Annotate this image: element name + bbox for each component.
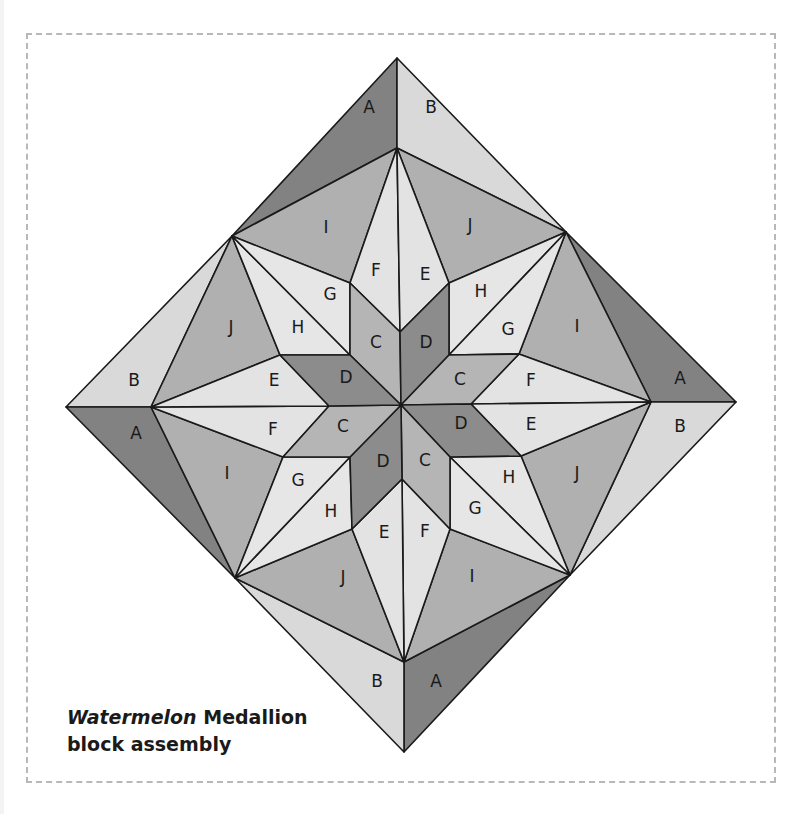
piece-label: F	[420, 521, 430, 541]
piece-label: G	[468, 498, 481, 518]
piece-label: G	[291, 470, 304, 490]
medallion-block-diagram: ABABABBAIJIJIJIJFEHGFEHGFEHGFEHGCDCDCDCD	[0, 0, 808, 814]
piece-label: J	[227, 317, 233, 337]
piece-label: A	[674, 368, 686, 388]
piece-label: H	[475, 281, 488, 301]
piece-label: C	[454, 369, 466, 389]
piece-label: E	[269, 370, 280, 390]
piece-label: D	[454, 413, 467, 433]
piece-label: H	[503, 467, 516, 487]
piece-label: C	[337, 416, 349, 436]
piece-label: J	[466, 215, 472, 235]
caption-line-1: Watermelon Medallion	[67, 704, 308, 731]
piece-label: C	[370, 332, 382, 352]
piece-label: D	[339, 367, 352, 387]
piece-label: E	[420, 264, 431, 284]
piece-label: I	[224, 463, 229, 483]
caption-title-italic: Watermelon	[67, 706, 197, 728]
piece-label: I	[469, 566, 474, 586]
piece-label: A	[430, 671, 442, 691]
piece-label: J	[573, 463, 579, 483]
piece-label: D	[419, 332, 432, 352]
piece-label: J	[339, 567, 345, 587]
caption-line-2: block assembly	[67, 731, 308, 758]
caption-title-rest: Medallion	[197, 706, 308, 728]
piece-label: H	[325, 501, 338, 521]
piece-label: A	[130, 423, 142, 443]
piece-label: C	[419, 450, 431, 470]
piece-label: E	[526, 414, 537, 434]
piece-label: B	[425, 97, 437, 117]
piece-label: B	[371, 671, 383, 691]
figure-caption: Watermelon Medallion block assembly	[67, 704, 308, 758]
piece-label: F	[526, 370, 536, 390]
piece-label: D	[376, 451, 389, 471]
piece-label: I	[574, 316, 579, 336]
piece-label: I	[323, 217, 328, 237]
piece-label: B	[674, 416, 686, 436]
piece-label: G	[501, 319, 514, 339]
piece-label: B	[128, 370, 140, 390]
piece-label: H	[292, 317, 305, 337]
piece-label: F	[371, 260, 381, 280]
piece-label: F	[268, 419, 278, 439]
piece-label: G	[323, 284, 336, 304]
piece-label: E	[379, 522, 390, 542]
piece-label: A	[363, 97, 375, 117]
